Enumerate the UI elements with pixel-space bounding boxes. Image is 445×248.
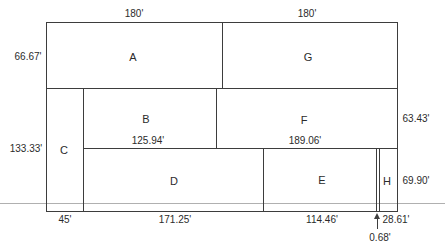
divider-c-right [83, 88, 84, 212]
region-label-h: H [383, 176, 391, 187]
strip-left-line [376, 148, 377, 212]
dim-label-inner-f: 189.06' [289, 136, 322, 146]
dim-label-right-lower: 69.90' [403, 176, 430, 186]
divider-b-f [216, 88, 217, 148]
partition-diagram: A B C D E F G H 180' 180' 66.67' 133.33'… [0, 0, 445, 248]
divider-row2-bottom [83, 148, 398, 149]
divider-d-e [263, 148, 264, 212]
dim-label-right-upper: 63.43' [403, 114, 430, 124]
dim-label-left-lower: 133.33' [10, 144, 43, 154]
divider-row1-bottom [46, 88, 398, 89]
dim-label-top-a: 180' [125, 9, 144, 19]
dim-label-bottom-e: 114.46' [306, 215, 338, 225]
dim-label-bottom-d: 171.25' [159, 215, 192, 225]
dim-label-inner-b: 125.94' [132, 136, 165, 146]
region-label-g: G [304, 52, 313, 63]
dim-label-left-upper: 66.67' [15, 52, 42, 62]
arrow-shaft [377, 218, 378, 229]
divider-a-g [222, 22, 223, 88]
dim-label-strip: 0.68' [369, 233, 390, 243]
region-label-d: D [170, 176, 178, 187]
region-label-f: F [301, 115, 308, 126]
region-label-a: A [129, 52, 136, 63]
dim-label-bottom-c: 45' [58, 215, 71, 225]
region-label-e: E [318, 175, 325, 186]
dim-label-bottom-h: 28.61' [383, 215, 410, 225]
dim-label-top-g: 180' [298, 9, 317, 19]
strip-right-line [379, 148, 380, 212]
region-label-c: C [60, 145, 68, 156]
region-label-b: B [142, 114, 149, 125]
